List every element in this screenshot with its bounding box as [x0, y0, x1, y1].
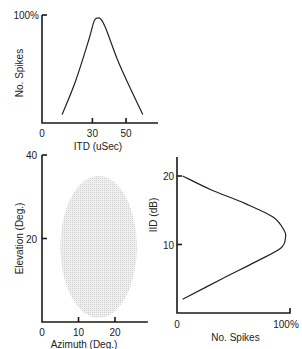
axis-lines: [177, 157, 290, 313]
y-axis-label: IID (dB): [148, 198, 159, 232]
x-tick-label: 30: [87, 128, 99, 139]
figure: 100%03050ITD (uSec)No. Spikes 204001020A…: [0, 0, 302, 349]
tuning-curve: [62, 18, 143, 115]
x-axis-label: No. Spikes: [211, 332, 259, 343]
x-axis-label: ITD (uSec): [74, 141, 122, 152]
x-tick-label: 0: [39, 128, 45, 139]
x-tick-label: 100%: [273, 319, 299, 330]
y-tick-label: 10: [163, 240, 175, 251]
x-tick-label: 0: [174, 319, 180, 330]
y-tick-label: 20: [26, 234, 38, 245]
receptive-field-ellipse: [60, 176, 137, 318]
x-tick-label: 10: [73, 327, 85, 338]
y-tick-label: 40: [26, 150, 38, 161]
y-tick-label: 100%: [13, 10, 39, 21]
itd-panel: 100%03050ITD (uSec)No. Spikes: [13, 10, 158, 152]
x-axis-label: Azimuth (Deg.): [51, 339, 118, 349]
y-axis-label: Elevation (Deg.): [14, 203, 25, 275]
axis-lines: [42, 15, 158, 123]
y-tick-label: 20: [163, 171, 175, 182]
x-tick-label: 0: [39, 327, 45, 338]
receptive-field-panel: 204001020Azimuth (Deg.)Elevation (Deg.): [14, 150, 148, 349]
x-tick-label: 50: [120, 128, 132, 139]
tuning-curve: [183, 176, 286, 299]
x-tick-label: 20: [109, 327, 121, 338]
y-axis-label: No. Spikes: [14, 49, 25, 97]
iid-panel: 10200100%No. SpikesIID (dB): [148, 157, 299, 343]
